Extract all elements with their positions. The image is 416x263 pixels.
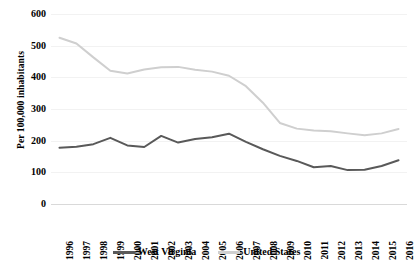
legend-item[interactable]: West Virginia: [113, 246, 197, 258]
series-lines: [51, 14, 407, 204]
x-axis-tick-labels: 1996199719981999200020012002200320042005…: [51, 205, 407, 243]
y-axis-tick-labels: 6005004003002001000: [18, 0, 46, 263]
y-axis-tick-label: 600: [20, 9, 46, 19]
legend-line-swatch: [113, 251, 135, 254]
series-line-united-states: [59, 38, 398, 136]
legend-label: United States: [243, 246, 300, 258]
legend-line-swatch: [218, 251, 240, 254]
y-axis-tick-label: 500: [20, 41, 46, 51]
legend-item[interactable]: United States: [218, 246, 300, 258]
y-axis-tick-label: 200: [20, 136, 46, 146]
y-axis-tick-label: 300: [20, 104, 46, 114]
y-axis-tick-label: 400: [20, 72, 46, 82]
plot-area: [51, 14, 407, 204]
chart-legend: West VirginiaUnited States: [0, 243, 413, 261]
y-axis-tick-label: 100: [20, 167, 46, 177]
series-line-west-virginia: [59, 134, 398, 170]
legend-label: West Virginia: [138, 246, 197, 258]
y-axis-tick-label: 0: [20, 199, 46, 209]
